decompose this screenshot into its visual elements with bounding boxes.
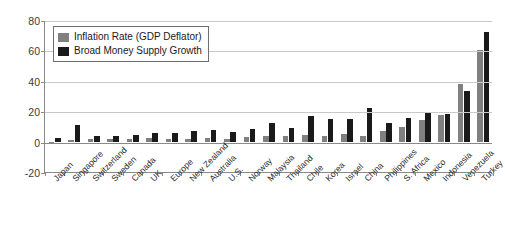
bar bbox=[113, 136, 119, 142]
bar bbox=[127, 139, 133, 142]
y-tick-mark bbox=[41, 82, 45, 83]
chart-legend: Inflation Rate (GDP Deflator) Broad Mone… bbox=[53, 26, 209, 62]
bar bbox=[133, 135, 139, 142]
legend-item: Broad Money Supply Growth bbox=[58, 44, 202, 58]
bar bbox=[244, 137, 250, 142]
y-tick-mark bbox=[41, 21, 45, 22]
bar bbox=[94, 136, 100, 142]
bar bbox=[166, 139, 172, 142]
bar bbox=[211, 130, 217, 141]
y-tick-label: 80 bbox=[4, 16, 40, 27]
bar bbox=[438, 115, 444, 142]
bar bbox=[347, 119, 353, 142]
y-axis: -20020406080 bbox=[0, 21, 40, 173]
bar bbox=[230, 132, 236, 142]
bar bbox=[406, 118, 412, 142]
bar bbox=[302, 135, 308, 142]
bar bbox=[386, 123, 392, 141]
gridline bbox=[45, 82, 492, 83]
y-tick-mark bbox=[41, 112, 45, 113]
bar bbox=[341, 134, 347, 142]
bar bbox=[328, 119, 334, 142]
bar bbox=[399, 127, 405, 141]
y-tick-label: 20 bbox=[4, 107, 40, 118]
zero-line bbox=[45, 143, 492, 144]
bar bbox=[68, 140, 74, 142]
bar bbox=[152, 133, 158, 141]
bar bbox=[464, 91, 470, 141]
bar bbox=[75, 125, 81, 142]
bar bbox=[445, 114, 451, 142]
bar bbox=[250, 129, 256, 141]
bar bbox=[477, 50, 483, 141]
bar bbox=[425, 112, 431, 142]
bar bbox=[107, 139, 113, 141]
bar bbox=[367, 108, 373, 141]
bar bbox=[322, 136, 328, 141]
legend-label-inflation-rate: Inflation Rate (GDP Deflator) bbox=[74, 32, 202, 42]
bar bbox=[419, 120, 425, 142]
bar bbox=[172, 133, 178, 142]
bar bbox=[308, 116, 314, 142]
legend-swatch-broad-money-supply-growth bbox=[58, 47, 69, 56]
y-tick-mark bbox=[41, 143, 45, 144]
legend-swatch-inflation-rate bbox=[58, 33, 69, 42]
bar bbox=[55, 138, 61, 142]
bar bbox=[263, 136, 269, 141]
bar bbox=[146, 138, 152, 142]
bar bbox=[360, 136, 366, 142]
y-tick-label: 60 bbox=[4, 46, 40, 57]
bar bbox=[484, 32, 490, 141]
bar bbox=[283, 136, 289, 141]
y-tick-label: -20 bbox=[4, 168, 40, 179]
bar bbox=[269, 123, 275, 142]
bar bbox=[185, 139, 191, 142]
legend-label-broad-money-supply-growth: Broad Money Supply Growth bbox=[74, 46, 202, 56]
x-axis-labels: JapanSingaporeSwitzerlandSwedenCanadaUKE… bbox=[44, 173, 492, 248]
gridline bbox=[45, 112, 492, 113]
bar bbox=[191, 131, 197, 142]
gridline bbox=[45, 21, 492, 22]
y-tick-mark bbox=[41, 51, 45, 52]
legend-item: Inflation Rate (GDP Deflator) bbox=[58, 30, 202, 44]
bar bbox=[88, 139, 94, 141]
bar bbox=[205, 138, 211, 142]
y-tick-label: 0 bbox=[4, 137, 40, 148]
bar bbox=[289, 128, 295, 142]
y-tick-label: 40 bbox=[4, 77, 40, 88]
bar bbox=[380, 131, 386, 142]
